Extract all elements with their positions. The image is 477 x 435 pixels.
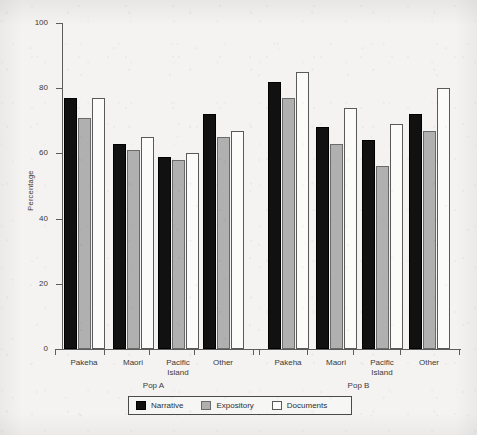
- x-tick-1: [104, 349, 105, 355]
- bar-expository-6: [376, 166, 389, 349]
- legend-item-narrative: Narrative: [136, 401, 183, 410]
- legend-label-expository: Expository: [216, 401, 253, 410]
- y-tick-label-0: 0: [0, 344, 48, 353]
- bar-documents-5: [344, 108, 357, 349]
- x-tick-2: [149, 349, 150, 355]
- y-tick-100: [56, 23, 62, 24]
- bar-expository-4: [282, 98, 295, 349]
- y-tick-label-20: 20: [0, 279, 48, 288]
- y-tick-80: [56, 88, 62, 89]
- bar-narrative-2: [158, 157, 171, 349]
- bar-narrative-6: [362, 140, 375, 349]
- x-axis-line: [62, 349, 461, 350]
- bar-documents-0: [92, 98, 105, 349]
- x-tick-end-1: [459, 349, 460, 355]
- population-group-label-0: Pop A: [124, 381, 184, 390]
- x-tick-0: [55, 349, 56, 355]
- bar-documents-3: [231, 131, 244, 349]
- x-tick-end-0: [253, 349, 254, 355]
- bar-narrative-5: [316, 127, 329, 349]
- legend-label-narrative: Narrative: [151, 401, 183, 410]
- population-group-label-1: Pop B: [329, 381, 389, 390]
- x-tick-5: [307, 349, 308, 355]
- y-tick-60: [56, 153, 62, 154]
- y-tick-20: [56, 284, 62, 285]
- legend-swatch-narrative: [136, 401, 146, 410]
- bar-expository-3: [217, 137, 230, 349]
- bar-documents-7: [437, 88, 450, 349]
- chart-legend: NarrativeExpositoryDocuments: [128, 396, 352, 415]
- bar-narrative-1: [113, 144, 126, 349]
- y-tick-0: [56, 349, 62, 350]
- bar-narrative-4: [268, 82, 281, 349]
- bar-documents-2: [186, 153, 199, 349]
- x-category-label-3: Other: [193, 358, 253, 368]
- x-category-label-7: Other: [399, 358, 459, 368]
- bar-narrative-3: [203, 114, 216, 349]
- x-tick-3: [194, 349, 195, 355]
- bar-documents-6: [390, 124, 403, 349]
- legend-item-documents: Documents: [272, 401, 327, 410]
- bar-expository-0: [78, 118, 91, 349]
- legend-item-expository: Expository: [201, 401, 253, 410]
- y-tick-label-40: 40: [0, 214, 48, 223]
- bar-narrative-0: [64, 98, 77, 349]
- bar-documents-4: [296, 72, 309, 349]
- bar-narrative-7: [409, 114, 422, 349]
- legend-swatch-expository: [201, 401, 211, 410]
- y-tick-label-100: 100: [0, 18, 48, 27]
- x-tick-4: [259, 349, 260, 355]
- chart-figure: Percentage 020406080100 PakehaMaoriPacif…: [0, 0, 477, 435]
- legend-label-documents: Documents: [287, 401, 327, 410]
- y-tick-label-80: 80: [0, 83, 48, 92]
- y-tick-label-60: 60: [0, 148, 48, 157]
- bar-documents-1: [141, 137, 154, 349]
- y-tick-40: [56, 219, 62, 220]
- x-tick-7: [400, 349, 401, 355]
- bar-expository-1: [127, 150, 140, 349]
- bar-expository-5: [330, 144, 343, 349]
- legend-swatch-documents: [272, 401, 282, 410]
- bar-expository-2: [172, 160, 185, 349]
- x-tick-6: [353, 349, 354, 355]
- bar-expository-7: [423, 131, 436, 349]
